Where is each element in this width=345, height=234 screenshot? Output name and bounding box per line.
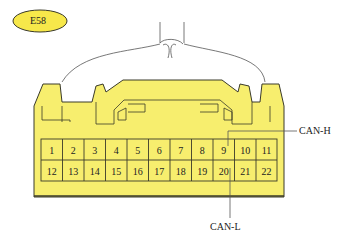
pin-22: 22 <box>262 166 272 177</box>
pin-17: 17 <box>154 166 164 177</box>
callout-can-l: CAN-L <box>210 221 241 232</box>
pin-18: 18 <box>176 166 186 177</box>
pin-20: 20 <box>219 166 229 177</box>
pin-11: 11 <box>262 145 272 156</box>
pin-9: 9 <box>221 145 226 156</box>
pin-4: 4 <box>114 145 119 156</box>
pin-14: 14 <box>90 166 100 177</box>
pin-15: 15 <box>111 166 121 177</box>
pin-13: 13 <box>68 166 78 177</box>
pin-21: 21 <box>240 166 250 177</box>
pin-10: 10 <box>240 145 250 156</box>
pin-1: 1 <box>49 145 54 156</box>
connector-diagram: 1 2 3 4 5 6 7 8 9 10 11 12 13 14 15 16 1… <box>0 0 345 234</box>
pin-5: 5 <box>135 145 140 156</box>
callout-can-h: CAN-H <box>299 125 331 136</box>
wire-harness <box>62 22 265 82</box>
pin-12: 12 <box>47 166 57 177</box>
pin-16: 16 <box>133 166 143 177</box>
connector-id-label: E58 <box>30 15 46 26</box>
pin-19: 19 <box>197 166 207 177</box>
pin-7: 7 <box>178 145 183 156</box>
pin-2: 2 <box>71 145 76 156</box>
connector-housing <box>34 80 284 197</box>
pin-6: 6 <box>157 145 162 156</box>
pin-3: 3 <box>92 145 97 156</box>
pin-8: 8 <box>200 145 205 156</box>
